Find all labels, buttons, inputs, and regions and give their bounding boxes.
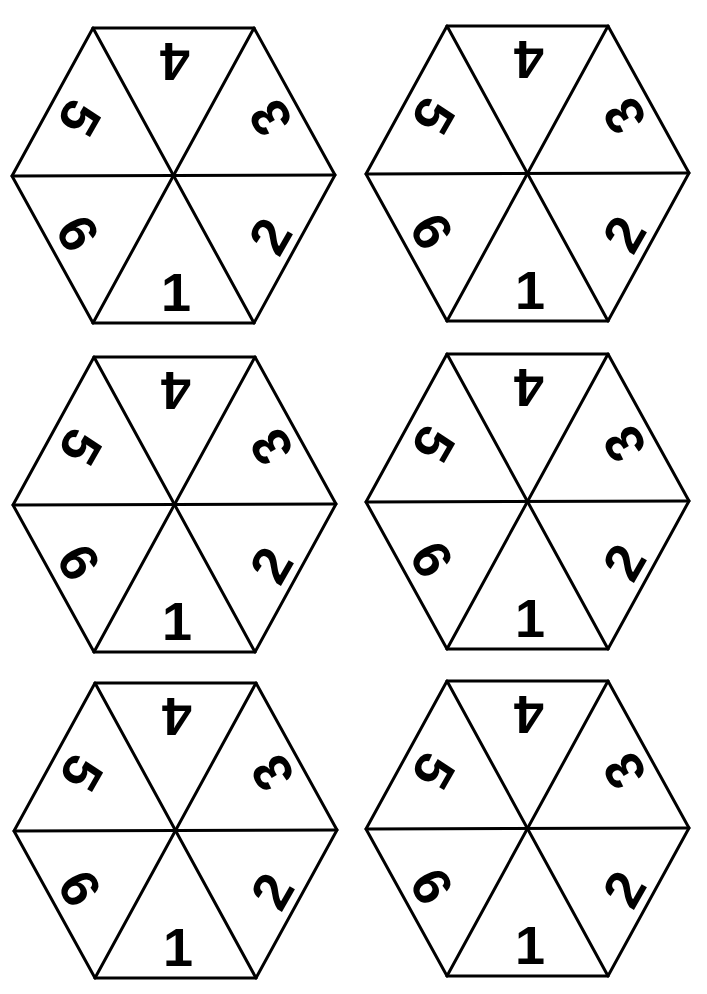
face-label-1: 1 [515,588,545,648]
face-label-1: 1 [161,262,191,322]
spinner-sheet: 4 5 3 6 2 1 4 5 3 6 2 1 4 5 3 6 2 1 4 5 … [0,0,707,994]
face-label-4: 4 [514,358,544,418]
face-label-1: 1 [515,260,545,320]
face-label-4: 4 [161,361,191,421]
face-label-4: 4 [514,30,544,90]
face-label-4: 4 [160,32,190,92]
face-label-4: 4 [162,687,192,747]
face-label-1: 1 [163,917,193,977]
face-label-4: 4 [514,685,544,745]
face-label-1: 1 [162,591,192,651]
face-label-1: 1 [515,915,545,975]
